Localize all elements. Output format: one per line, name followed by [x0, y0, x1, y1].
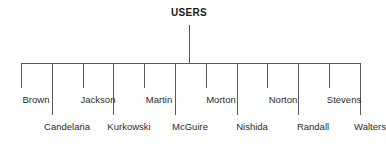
leaf-node-label: McGuire [172, 121, 208, 132]
tick-line [144, 63, 145, 88]
tick-line [113, 63, 114, 115]
leaf-node-label: Brown [23, 94, 50, 105]
tick-line [175, 63, 176, 115]
tick-line [298, 63, 299, 115]
horizontal-connector-line [21, 63, 360, 64]
tick-line [329, 63, 330, 88]
tick-line [267, 63, 268, 88]
tick-line [206, 63, 207, 88]
leaf-node-label: Morton [206, 94, 236, 105]
tick-line [360, 63, 361, 115]
root-stem-line [189, 25, 190, 63]
tick-line [237, 63, 238, 115]
leaf-node-label: Walters [354, 121, 386, 132]
leaf-node-label: Jackson [81, 94, 116, 105]
tick-line [52, 63, 53, 115]
root-node-label: USERS [0, 7, 378, 18]
org-chart-diagram: USERS BrownCandelariaJacksonKurkowskiMar… [0, 0, 386, 148]
leaf-node-label: Martin [146, 94, 172, 105]
leaf-node-label: Stevens [327, 94, 361, 105]
tick-line [21, 63, 22, 88]
leaf-node-label: Randall [297, 121, 329, 132]
leaf-node-label: Norton [269, 94, 298, 105]
leaf-node-label: Nishida [236, 121, 268, 132]
leaf-node-label: Candelaria [44, 121, 90, 132]
tick-line [83, 63, 84, 88]
leaf-node-label: Kurkowski [107, 121, 150, 132]
